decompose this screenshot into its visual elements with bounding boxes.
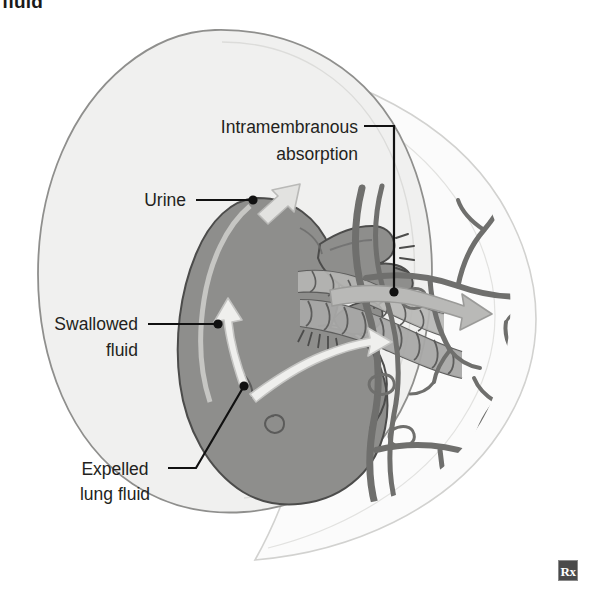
- rx-watermark: Rx: [558, 560, 578, 581]
- amniotic-fluid-diagram: fluid: [0, 0, 589, 609]
- leader-dot-urine: [248, 195, 257, 204]
- leader-dot-expelled-lung-fluid: [239, 381, 248, 390]
- label-urine-line1: Urine: [144, 190, 186, 210]
- label-expelled-lung-fluid-line1: Expelled: [81, 459, 148, 479]
- leader-dot-swallowed-fluid: [213, 319, 222, 328]
- leader-dot-intramembranous-absorption: [389, 287, 398, 296]
- label-swallowed-fluid-line2: fluid: [106, 340, 138, 360]
- label-intramembranous-absorption-line1: Intramembranous: [221, 117, 358, 137]
- diagram-canvas: Intramembranous absorption Urine Swallow…: [0, 0, 589, 609]
- label-swallowed-fluid-line1: Swallowed: [54, 314, 138, 334]
- label-expelled-lung-fluid-line2: lung fluid: [80, 484, 150, 504]
- label-intramembranous-absorption-line2: absorption: [276, 144, 358, 164]
